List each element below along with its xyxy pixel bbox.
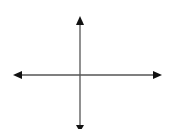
horizontal-axis <box>13 71 162 79</box>
right-arrowhead-icon <box>153 71 162 79</box>
coordinate-axes-diagram <box>0 0 171 129</box>
up-arrowhead-icon <box>76 16 84 25</box>
vertical-axis <box>76 16 84 129</box>
down-arrowhead-icon <box>76 125 84 129</box>
left-arrowhead-icon <box>13 71 22 79</box>
